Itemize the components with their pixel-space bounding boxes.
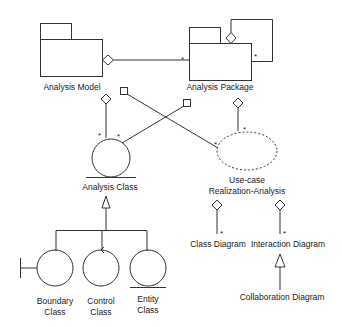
boundary-class-icon xyxy=(20,250,73,286)
multiplicity-interaction-diagram: * xyxy=(283,230,286,238)
analysis-model-package-icon xyxy=(41,24,103,77)
control-class-label-line1: Control xyxy=(76,296,126,306)
analysis-class-label: Analysis Class xyxy=(72,182,148,192)
control-class-icon xyxy=(83,247,119,286)
use-case-label-line2: Realization-Analysis xyxy=(197,186,297,196)
multiplicity-package-self: * xyxy=(254,53,257,61)
analysis-model-label: Analysis Model xyxy=(40,82,104,92)
collaboration-generalization xyxy=(275,254,285,290)
class-diagram-label: Class Diagram xyxy=(184,239,252,249)
interaction-diagram-label: Interaction Diagram xyxy=(248,239,328,249)
package-usecase-aggregation xyxy=(233,98,243,131)
package-self-aggregation xyxy=(226,20,273,62)
multiplicity-class-diagram: * xyxy=(220,230,223,238)
multiplicity-class-from-model: * xyxy=(98,132,101,140)
analysis-class-icon xyxy=(86,139,136,178)
model-usecase-association xyxy=(121,88,219,149)
boundary-class-label-line1: Boundary xyxy=(30,296,80,306)
model-package-aggregation xyxy=(103,55,190,65)
package-class-association xyxy=(122,100,191,144)
collaboration-diagram-label: Collaboration Diagram xyxy=(232,292,332,302)
multiplicity-usecase-from-package: * xyxy=(243,126,246,134)
use-case-label-line1: Use-case xyxy=(207,175,287,185)
model-class-aggregation xyxy=(101,94,111,138)
analysis-package-icon xyxy=(190,28,252,81)
class-generalization xyxy=(56,196,147,251)
analysis-package-label: Analysis Package xyxy=(180,82,260,92)
entity-class-label-line1: Entity xyxy=(123,294,173,304)
multiplicity-model-package: * xyxy=(181,56,184,64)
entity-class-label-line2: Class xyxy=(123,305,173,315)
multiplicity-usecase-from-model: * xyxy=(214,141,217,149)
multiplicity-class-from-package: * xyxy=(117,133,120,141)
use-case-realization-icon xyxy=(217,132,277,170)
control-class-label-line2: Class xyxy=(76,307,126,317)
boundary-class-label-line2: Class xyxy=(30,307,80,317)
entity-class-icon xyxy=(130,250,166,288)
diagram-canvas xyxy=(0,0,342,327)
